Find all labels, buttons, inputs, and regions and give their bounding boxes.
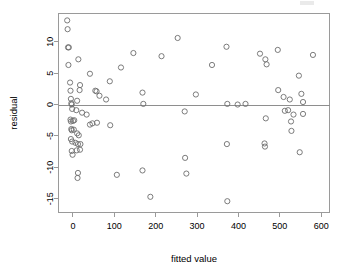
y-tick-label: 5 xyxy=(45,71,55,76)
x-tick-label: 500 xyxy=(272,221,287,231)
y-tick-label: -5 xyxy=(45,132,55,140)
top-artifact xyxy=(300,1,314,5)
y-axis-title: residual xyxy=(8,96,19,129)
residual-plot: 0100200300400500600 1050-5-10-15 fitted … xyxy=(0,0,342,278)
y-tick-label: 0 xyxy=(45,102,55,107)
x-tick-label: 200 xyxy=(148,221,163,231)
y-tick-label: -15 xyxy=(45,192,55,205)
x-tick-label: 600 xyxy=(314,221,329,231)
x-tick-label: 100 xyxy=(107,221,122,231)
x-tick-label: 400 xyxy=(231,221,246,231)
x-axis-title: fitted value xyxy=(171,253,217,264)
scatter-plot-svg: 0100200300400500600 1050-5-10-15 fitted … xyxy=(0,0,342,278)
y-tick-label: -10 xyxy=(45,161,55,174)
y-tick-label: 10 xyxy=(45,37,55,47)
x-tick-label: 300 xyxy=(190,221,205,231)
x-tick-label: 0 xyxy=(70,221,75,231)
